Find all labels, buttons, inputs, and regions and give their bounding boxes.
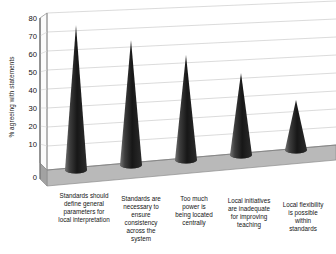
cat1-line3: parameters for <box>64 208 105 216</box>
y-tick-40: 40 <box>29 86 37 95</box>
cat4-line1: Local initiatives <box>228 197 271 204</box>
cat5-line1: Local flexibility <box>283 201 324 209</box>
cat3-line3: being located <box>175 211 213 219</box>
cat1-line1: Standards should <box>59 192 109 199</box>
cat5-line2: is possible <box>288 209 318 217</box>
cone-chart: 80 70 60 50 40 30 20 10 0 % agreeing wit… <box>0 0 336 254</box>
cat1-line2: define general <box>64 200 104 208</box>
cat4-line2: are inadequate <box>228 205 271 213</box>
y-tick-10: 10 <box>29 140 37 149</box>
category-label-4: Local initiatives are inadequate for imp… <box>228 197 271 229</box>
cat2-line1: Standards are <box>121 195 161 202</box>
y-axis-title-text: % agreeing with statements <box>8 56 16 137</box>
y-tick-20: 20 <box>29 122 37 131</box>
y-tick-70: 70 <box>29 32 37 41</box>
cat2-line3: ensure <box>131 211 151 218</box>
cat2-line5: across the <box>126 227 156 234</box>
chart-canvas: 80 70 60 50 40 30 20 10 0 % agreeing wit… <box>0 0 336 254</box>
cat4-line4: teaching <box>237 221 261 229</box>
cat3-line1: Too much <box>180 195 208 202</box>
category-labels: Standards should define general paramete… <box>58 192 324 243</box>
cat3-line2: power is <box>182 203 205 211</box>
cat2-line2: necessary to <box>123 203 159 211</box>
cat1-line4: local interpretation <box>58 216 110 224</box>
category-label-1: Standards should define general paramete… <box>58 192 110 224</box>
category-label-5: Local flexibility is possible within sta… <box>283 201 324 232</box>
cat5-line4: standards <box>289 225 317 232</box>
y-tick-80: 80 <box>29 14 37 23</box>
y-tick-labels: 80 70 60 50 40 30 20 10 0 <box>29 14 37 182</box>
y-tick-30: 30 <box>29 104 37 113</box>
category-label-2: Standards are necessary to ensure consis… <box>121 195 161 243</box>
y-tick-60: 60 <box>29 50 37 59</box>
left-side-wall <box>40 13 47 170</box>
cat4-line3: for improving <box>231 213 268 221</box>
y-axis-title: % agreeing with statements <box>8 56 16 137</box>
y-tick-0: 0 <box>33 173 37 182</box>
cat2-line4: consistency <box>125 219 159 227</box>
cat5-line3: within <box>294 217 312 224</box>
cat2-line6: system <box>131 235 151 243</box>
cat3-line4: centrally <box>182 219 206 227</box>
y-tick-50: 50 <box>29 68 37 77</box>
category-label-3: Too much power is being located centrall… <box>175 195 213 227</box>
